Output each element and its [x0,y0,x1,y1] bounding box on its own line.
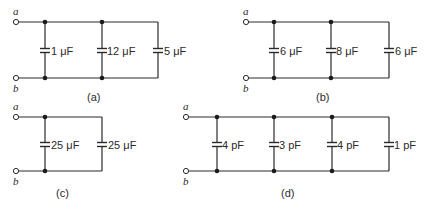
capacitor-symbol [40,142,50,147]
terminal-b-label: b [13,82,19,94]
capacitor-value: 25 μF [51,139,80,151]
capacitor-symbol [153,48,163,53]
capacitor-value: 25 μF [108,139,137,151]
circuit-label: (c) [56,187,69,199]
terminal-a [13,114,18,119]
terminal-b [243,75,248,80]
circuit-c: a b 25 μF 25 μF (c) [13,100,137,199]
capacitor-value: 8 μF [336,45,359,57]
terminal-a-label: a [13,5,19,17]
circuit-a: a b 1 μF 12 μF 5 μF (a) [13,5,187,103]
circuit-label: (d) [281,187,294,199]
terminal-b [183,168,188,173]
capacitor-symbol [97,142,107,147]
capacitor-symbol [269,142,279,147]
capacitor-circuits-figure: a b 1 μF 12 μF 5 μF (a) a b 6 μF 8 μF 6 [0,0,426,207]
terminal-b-label: b [243,82,249,94]
capacitor-symbol [384,142,394,147]
terminal-a [243,19,248,24]
capacitor-symbol [384,48,394,53]
capacitor-value: 1 pF [394,139,416,151]
capacitor-value: 1 μF [51,45,74,57]
capacitor-symbol [40,48,50,53]
capacitor-value: 3 pF [279,139,301,151]
terminal-a-label: a [243,5,249,17]
terminal-a-label: a [183,100,189,112]
terminal-b-label: b [183,175,189,187]
circuit-b: a b 6 μF 8 μF 6 μF (b) [243,5,418,103]
terminal-a [183,114,188,119]
capacitor-value: 6 μF [280,45,303,57]
terminal-b [13,75,18,80]
capacitor-value: 4 pF [337,139,359,151]
terminal-b-label: b [13,175,19,187]
terminal-b [13,168,18,173]
circuit-d: a b 4 pF 3 pF 4 pF 1 pF (d) [183,100,416,199]
capacitor-symbol [327,142,337,147]
circuit-label: (b) [316,91,329,103]
capacitor-symbol [212,142,222,147]
capacitor-symbol [97,48,107,53]
terminal-a [13,19,18,24]
circuit-label: (a) [87,91,100,103]
capacitor-value: 6 μF [395,45,418,57]
capacitor-value: 4 pF [222,139,244,151]
terminal-a-label: a [13,100,19,112]
capacitor-symbol [326,48,336,53]
capacitor-value: 12 μF [107,45,136,57]
capacitor-value: 5 μF [164,45,187,57]
capacitor-symbol [269,48,279,53]
